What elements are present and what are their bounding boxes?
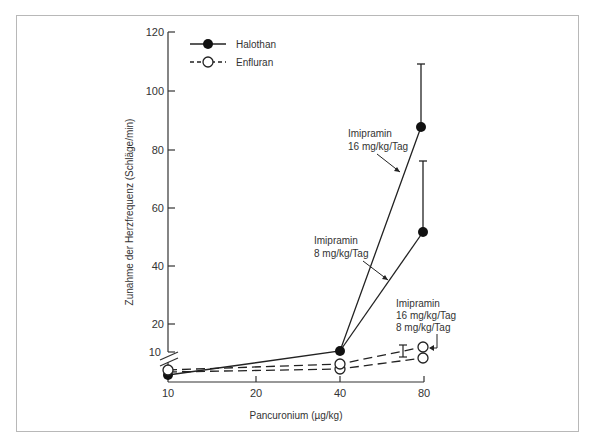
open-circle-icon — [203, 57, 213, 67]
y-tick-40: 40 — [152, 260, 164, 272]
legend-item-enfluran: Enfluran — [190, 57, 273, 68]
x-tick-80: 80 — [418, 387, 430, 399]
y-tick-10: 10 — [149, 346, 161, 358]
filled-circle-icon — [203, 39, 213, 49]
open-circle-icon — [163, 365, 173, 375]
svg-text:Enfluran: Enfluran — [236, 57, 273, 68]
x-tick-labels: 10 20 40 80 — [162, 387, 430, 399]
y-axis-label: Zunahme der Herzfrequenz (Schläge/min) — [124, 119, 135, 306]
svg-text:16 mg/kg/Tag: 16 mg/kg/Tag — [348, 141, 408, 152]
open-circle-icon — [418, 353, 428, 363]
x-tick-20: 20 — [250, 387, 262, 399]
svg-text:Halothan: Halothan — [236, 39, 276, 50]
legend: Halothan Enfluran — [190, 39, 276, 68]
annotation-16mg: Imipramin 16 mg/kg/Tag — [348, 128, 408, 172]
legend-item-halothan: Halothan — [190, 39, 276, 50]
annotation-8mg: Imipramin 8 mg/kg/Tag — [314, 235, 388, 280]
svg-text:16 mg/kg/Tag: 16 mg/kg/Tag — [396, 310, 456, 321]
series-halothan — [168, 64, 427, 375]
filled-circle-icon — [418, 227, 428, 237]
y-tick-20: 20 — [152, 318, 164, 330]
y-tick-100: 100 — [146, 85, 164, 97]
y-tick-60: 60 — [152, 202, 164, 214]
markers — [163, 122, 428, 380]
open-circle-icon — [418, 342, 428, 352]
y-tick-80: 80 — [152, 144, 164, 156]
x-tick-10: 10 — [162, 387, 174, 399]
x-axis-label: Pancuronium (µg/kg) — [249, 410, 342, 421]
open-circle-icon — [335, 359, 345, 369]
svg-text:8 mg/kg/Tag: 8 mg/kg/Tag — [314, 248, 368, 259]
svg-text:Imipramin: Imipramin — [348, 128, 392, 139]
filled-circle-icon — [416, 122, 426, 132]
x-axis — [168, 376, 424, 382]
filled-circle-icon — [335, 346, 345, 356]
svg-text:Imipramin: Imipramin — [314, 235, 358, 246]
y-tick-120: 120 — [146, 26, 164, 38]
svg-text:Imipramin: Imipramin — [396, 298, 440, 309]
y-tick-labels: 120 100 80 60 40 20 10 — [146, 26, 164, 358]
chart: 120 100 80 60 40 20 10 Zunahme der Herzf… — [0, 0, 591, 444]
svg-text:8 mg/kg/Tag: 8 mg/kg/Tag — [396, 322, 450, 333]
x-tick-40: 40 — [334, 387, 346, 399]
series-enfluran — [168, 347, 423, 372]
